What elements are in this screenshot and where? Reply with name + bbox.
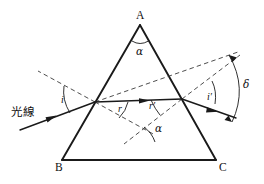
normals-angle-label: α — [155, 123, 162, 134]
internal-exit-angle-label: r′ — [149, 101, 155, 111]
normal-entry-outer-segment — [38, 71, 95, 102]
apex-angle-label: α — [136, 46, 143, 57]
vertex-label-A: A — [136, 10, 144, 22]
incident-ray-extension — [95, 52, 238, 102]
deviation-arc-arrow-top — [229, 55, 237, 62]
apex-angle-arc — [132, 41, 149, 44]
incident-ray-arrowhead — [46, 116, 57, 123]
deviation-angle-label: δ — [243, 79, 249, 90]
refraction-angle-label: r — [118, 104, 122, 114]
incident-ray-label: 光線 — [11, 107, 34, 119]
incidence-angle-label: i — [61, 95, 64, 105]
emergent-ray-arrowhead — [206, 107, 218, 112]
internal-ray-line — [95, 99, 182, 102]
prism-side-AB — [62, 25, 140, 160]
deviation-angle-arc — [229, 55, 239, 122]
prism-side-AC — [140, 25, 216, 160]
incidence-angle-arc — [64, 86, 70, 113]
incident-extension-line — [95, 52, 238, 102]
vertex-label-B: B — [55, 162, 63, 174]
normal-line-entry — [38, 71, 155, 135]
normal-entry-inner-segment — [95, 102, 155, 135]
vertex-label-C: C — [219, 162, 227, 174]
emergence-angle-label: i′ — [207, 92, 212, 102]
diagram-canvas — [0, 0, 264, 184]
prism-refraction-diagram: A B C 光線 α i r r′ i′ α δ — [0, 0, 264, 184]
internal-ray — [95, 98, 182, 103]
normals-angle-arc — [144, 127, 155, 142]
emergence-angle-arc — [212, 81, 216, 104]
